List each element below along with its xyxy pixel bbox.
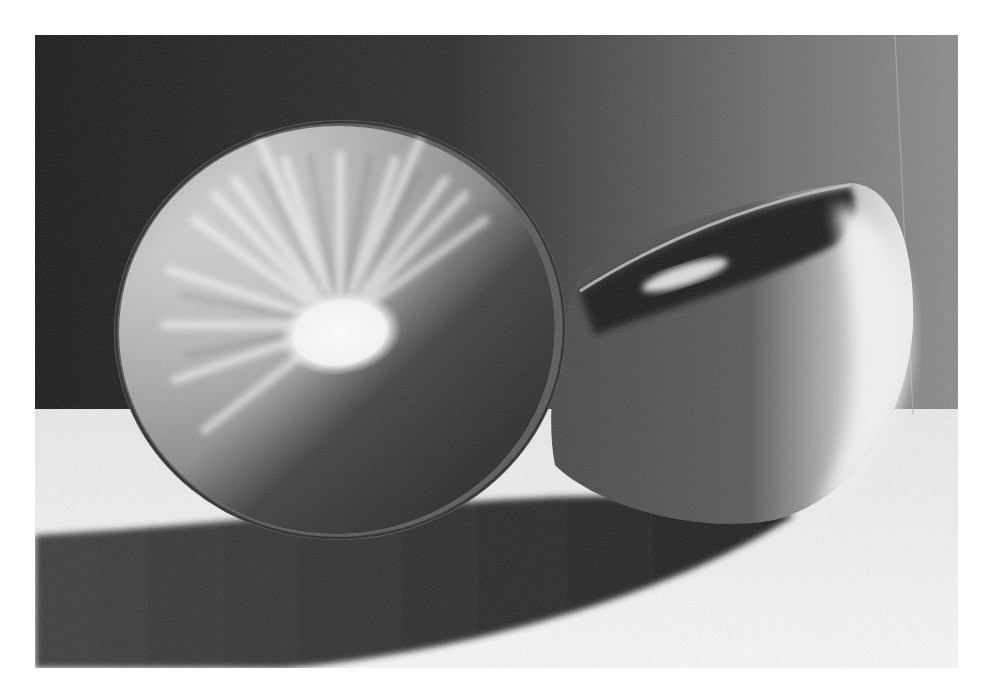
kiwi-photograph xyxy=(35,35,958,668)
photo-frame xyxy=(35,35,958,668)
